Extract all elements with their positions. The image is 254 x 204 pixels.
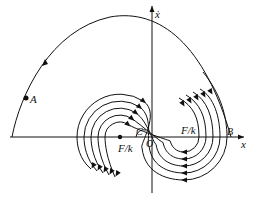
phase-plane-diagram: A B C O F/k F/k x ẋ xyxy=(0,0,254,204)
left-arrow-icon xyxy=(181,170,187,175)
right-lower-arrows xyxy=(181,149,187,182)
label-a: A xyxy=(29,93,37,105)
label-x-axis: x xyxy=(240,138,246,150)
right-upper-trajectory xyxy=(203,72,227,137)
left-arrow-icon xyxy=(181,177,187,182)
label-y-axis: ẋ xyxy=(154,8,160,20)
left-arrow-icon xyxy=(181,163,187,168)
down-right-arrow-icon xyxy=(128,115,136,123)
y-axis-arrow-icon xyxy=(150,6,155,12)
point-left-center xyxy=(118,135,122,139)
label-origin: O xyxy=(146,138,153,149)
point-a xyxy=(24,96,29,101)
left-tail-arrows xyxy=(89,162,121,178)
x-axis xyxy=(10,135,244,140)
down-right-arrow-icon xyxy=(193,94,201,102)
left-arrow-icon xyxy=(181,156,187,161)
label-left-fk: F/k xyxy=(117,142,134,154)
down-right-arrow-icon xyxy=(124,121,132,129)
down-right-arrow-icon xyxy=(179,100,187,108)
outer-trajectory xyxy=(12,16,231,137)
y-axis xyxy=(150,6,155,193)
left-arrow-icon xyxy=(181,149,187,154)
label-right-fk: F/k xyxy=(180,124,197,136)
outer-trajectory-arrow-icon xyxy=(42,59,48,66)
label-c: C xyxy=(136,126,143,137)
label-b: B xyxy=(227,126,233,137)
down-right-arrow-icon xyxy=(200,91,208,99)
